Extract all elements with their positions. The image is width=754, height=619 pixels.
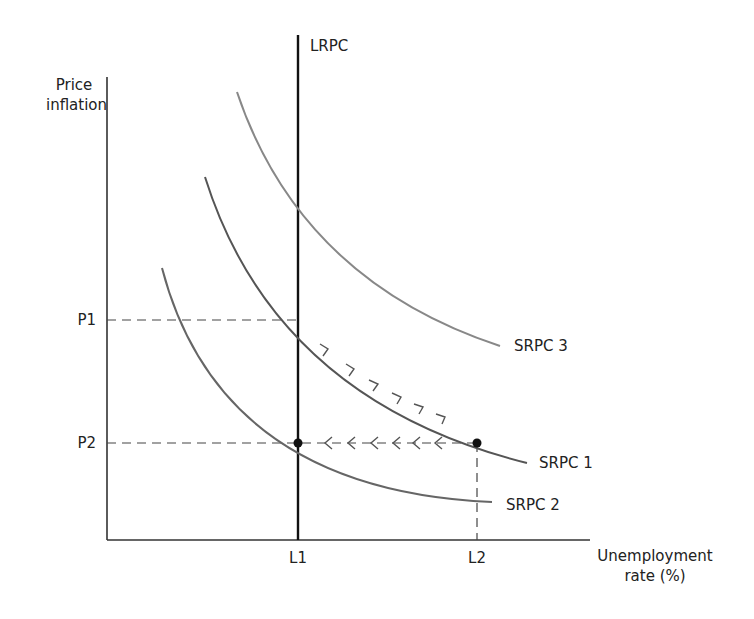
srpc3-label: SRPC 3 [514, 336, 568, 356]
point-l1-p2 [294, 439, 303, 448]
lrpc-label: LRPC [310, 36, 348, 56]
phillips-curve-diagram [0, 0, 754, 619]
y-axis-label-line2: inflation [46, 95, 102, 115]
tick-p1: P1 [60, 310, 96, 330]
srpc1-arrows [320, 344, 445, 424]
x-axis-label-line1: Unemployment [580, 546, 730, 566]
srpc1-label: SRPC 1 [539, 453, 593, 473]
srpc3-curve [237, 92, 500, 346]
x-axis-label-line2: rate (%) [580, 566, 730, 586]
y-axis-label: Price inflation [46, 75, 102, 115]
srpc2-label: SRPC 2 [506, 495, 560, 515]
srpc1-curve [205, 177, 527, 463]
y-axis-label-line1: Price [46, 75, 102, 95]
x-axis-label: Unemployment rate (%) [580, 546, 730, 586]
tick-l1: L1 [280, 548, 316, 568]
tick-l2: L2 [459, 548, 495, 568]
tick-p2: P2 [60, 433, 96, 453]
point-l2-p2 [473, 439, 482, 448]
srpc2-curve [162, 268, 492, 502]
